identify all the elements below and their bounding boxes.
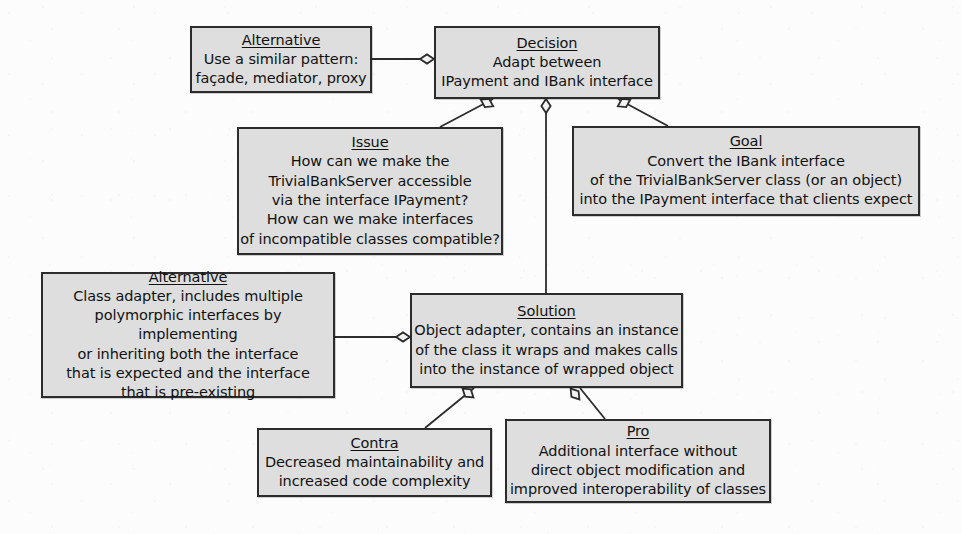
node-solution[interactable]: SolutionObject adapter, contains an inst… [410, 293, 683, 388]
node-title: Alternative [242, 31, 320, 50]
node-alternative-pattern[interactable]: AlternativeUse a similar pattern: façade… [190, 26, 372, 93]
node-alternative-class-adapter[interactable]: AlternativeClass adapter, includes multi… [41, 272, 335, 398]
edge-alternative-class-adapter-solution [335, 332, 410, 341]
edge-decision-issue [440, 96, 495, 127]
node-goal[interactable]: GoalConvert the IBank interface of the T… [572, 126, 920, 216]
node-body: How can we make the TrivialBankServer ac… [240, 152, 500, 248]
node-title: Issue [352, 133, 389, 152]
diagram-canvas: AlternativeUse a similar pattern: façade… [0, 0, 962, 534]
node-pro[interactable]: ProAdditional interface without direct o… [505, 419, 771, 503]
node-issue[interactable]: IssueHow can we make the TrivialBankServ… [237, 127, 503, 255]
connector-line [580, 388, 605, 419]
edge-decision-solution [541, 99, 550, 293]
node-title: Solution [517, 302, 575, 321]
aggregation-diamond [541, 99, 550, 113]
node-title: Decision [517, 34, 578, 53]
node-body: Convert the IBank interface of the Trivi… [580, 152, 913, 210]
node-contra[interactable]: ContraDecreased maintainability and incr… [257, 428, 492, 497]
node-title: Alternative [149, 268, 227, 287]
aggregation-diamond [420, 54, 434, 63]
node-title: Contra [350, 434, 398, 453]
node-body: Adapt between IPayment and IBank interfa… [441, 53, 652, 92]
node-decision[interactable]: DecisionAdapt between IPayment and IBank… [434, 26, 660, 99]
edge-solution-pro [567, 386, 605, 419]
edge-decision-goal [616, 96, 668, 126]
edge-solution-contra [425, 385, 476, 428]
node-body: Class adapter, includes multiple polymor… [43, 287, 333, 403]
node-title: Goal [730, 132, 763, 151]
aggregation-diamond [396, 332, 410, 341]
node-body: Use a similar pattern: façade, mediator,… [195, 50, 366, 89]
node-body: Object adapter, contains an instance of … [414, 321, 678, 379]
node-body: Decreased maintainability and increased … [265, 453, 484, 492]
edge-alternative-pattern-decision [372, 54, 434, 63]
node-body: Additional interface without direct obje… [510, 442, 766, 500]
node-title: Pro [627, 422, 650, 441]
